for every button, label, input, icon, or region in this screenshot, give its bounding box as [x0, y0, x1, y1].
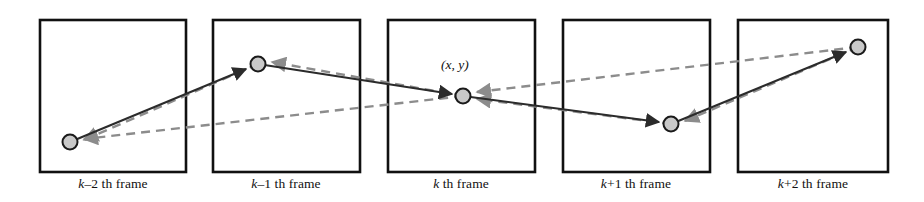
- trajectory-node-k-plus-2: [851, 40, 866, 55]
- frame-caption-offset-k-minus-1: –1: [257, 176, 271, 191]
- frame-rect-k-minus-1: [213, 20, 360, 172]
- frame-caption-suffix-k-minus-2: th frame: [98, 176, 148, 191]
- point-coordinate-label: (x, y): [441, 57, 469, 73]
- motion-trajectory-figure: (x, y) k–2 th frame k–1 th frame k th fr…: [0, 0, 924, 202]
- frame-rect-k-plus-1: [563, 20, 710, 172]
- trajectory-node-k-plus-1: [664, 117, 679, 132]
- frame-caption-k-plus-2: k+2 th frame: [733, 176, 893, 192]
- frame-caption-suffix-k: th frame: [439, 176, 489, 191]
- frame-caption-k-plus-1: k+1 th frame: [556, 176, 716, 192]
- frame-caption-k: k th frame: [381, 176, 541, 192]
- frame-caption-offset-k-plus-2: +2: [784, 176, 799, 191]
- frame-caption-offset-k-plus-1: +1: [607, 176, 622, 191]
- trajectory-node-k-minus-2: [63, 135, 78, 150]
- frame-caption-k-minus-1: k–1 th frame: [206, 176, 366, 192]
- frame-rect-k-minus-2: [40, 20, 186, 172]
- frame-caption-suffix-k-plus-2: th frame: [799, 176, 849, 191]
- trajectory-node-k: [456, 89, 471, 104]
- frame-caption-k-minus-2: k–2 th frame: [33, 176, 193, 192]
- frame-caption-offset-k-minus-2: –2: [84, 176, 98, 191]
- figure-canvas: [0, 0, 924, 202]
- frame-rect-k-plus-2: [738, 20, 888, 172]
- frame-caption-suffix-k-minus-1: th frame: [271, 176, 321, 191]
- trajectory-node-k-minus-1: [251, 57, 266, 72]
- frame-caption-suffix-k-plus-1: th frame: [622, 176, 672, 191]
